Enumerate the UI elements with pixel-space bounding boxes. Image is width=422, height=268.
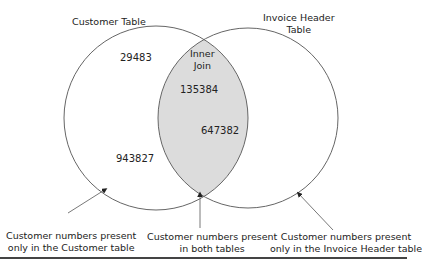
intersection-value-2: 647382 bbox=[201, 125, 239, 136]
annotation-customer-only-line1: Customer numbers present bbox=[6, 230, 136, 242]
inner-join-label-line1: Inner bbox=[190, 48, 215, 60]
customer-value-2: 943827 bbox=[116, 153, 154, 164]
customer-value-1: 29483 bbox=[120, 52, 152, 63]
intersection-value-1: 135384 bbox=[180, 84, 218, 95]
annotation-both-line2: in both tables bbox=[147, 243, 277, 255]
annotation-both: Customer numbers present in both tables bbox=[147, 231, 277, 255]
annotation-both-line1: Customer numbers present bbox=[147, 231, 277, 243]
annotation-invoice-only: Customer numbers present only in the Inv… bbox=[270, 231, 422, 255]
invoice-header-label-line2: Table bbox=[263, 24, 335, 36]
invoice-header-label: Invoice Header Table bbox=[263, 12, 335, 36]
arrow-left bbox=[68, 189, 106, 213]
customer-table-label: Customer Table bbox=[72, 16, 146, 28]
inner-join-label-line2: Join bbox=[190, 60, 215, 72]
bottom-rule bbox=[0, 257, 407, 259]
annotation-customer-only: Customer numbers present only in the Cus… bbox=[6, 230, 136, 254]
inner-join-label: Inner Join bbox=[190, 48, 215, 72]
annotation-customer-only-line2: only in the Customer table bbox=[6, 242, 136, 254]
annotation-invoice-only-line1: Customer numbers present bbox=[270, 231, 422, 243]
annotation-invoice-only-line2: only in the Invoice Header table bbox=[270, 243, 422, 255]
arrow-right bbox=[298, 193, 333, 230]
invoice-header-label-line1: Invoice Header bbox=[263, 12, 335, 24]
